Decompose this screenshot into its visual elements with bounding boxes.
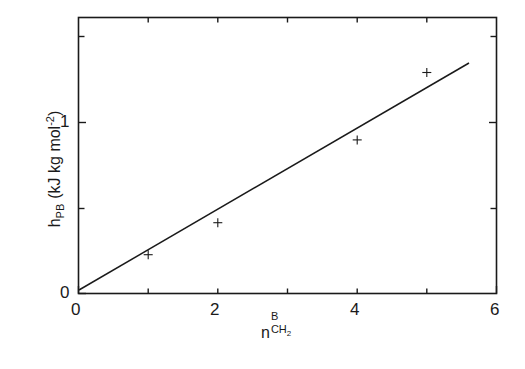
data-point-marker xyxy=(422,68,431,77)
y-axis-units-exponent: -2 xyxy=(44,116,56,126)
y-tick-label-0: 0 xyxy=(60,284,69,301)
x-axis-title: nBCH2 xyxy=(261,322,270,342)
x-axis-subscript-digit: 2 xyxy=(287,329,291,338)
y-axis-ticks xyxy=(79,37,87,294)
x-axis-symbol: n xyxy=(261,324,270,341)
data-point-marker xyxy=(213,218,222,227)
x-tick-label-4: 4 xyxy=(350,301,359,318)
x-tick-label-6: 6 xyxy=(490,301,499,318)
x-axis-ticks xyxy=(79,286,497,294)
y-axis-symbol-subscript: PB xyxy=(54,204,66,219)
plot-frame xyxy=(79,18,497,294)
x-axis-subscript-main: CH xyxy=(271,323,287,335)
figure-container: 0 2 4 6 1 0 hPB (kJ kg mol-2) nBCH2 xyxy=(0,0,525,369)
y-axis-units-close: ) xyxy=(46,111,63,116)
y-axis-units-open: (kJ kg mol xyxy=(46,126,63,199)
y-axis-title: hPB (kJ kg mol-2) xyxy=(46,54,64,284)
x-axis-subscript: CH2 xyxy=(271,329,291,334)
y-axis-symbol: h xyxy=(46,218,63,227)
x-tick-label-2: 2 xyxy=(210,301,219,318)
linear-fit-line xyxy=(79,63,469,290)
y-axis-right-ticks xyxy=(489,37,497,209)
data-point-marker xyxy=(353,135,362,144)
x-tick-label-0: 0 xyxy=(71,301,80,318)
